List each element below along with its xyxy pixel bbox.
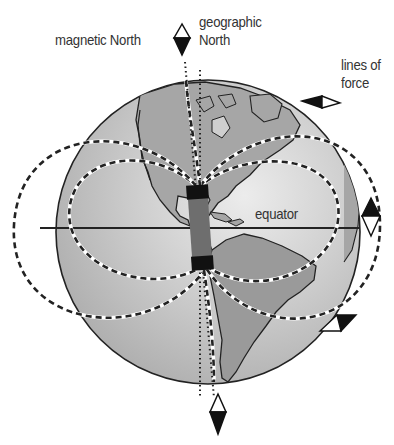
lines-of-force-label-line1: lines of [341, 56, 381, 73]
compass-bottom-icon [210, 394, 226, 434]
lines-of-force-label-line2: force [341, 74, 369, 91]
geographic-north-label-line2: North [199, 31, 230, 48]
magnetic-north-label: magnetic North [55, 31, 141, 48]
geographic-north-label-line1: geographic [199, 13, 262, 30]
equator-label: equator [255, 205, 298, 222]
compass-magnetic-north-icon [174, 24, 190, 55]
magnetic-field-diagram [0, 0, 394, 445]
compass-lines-of-force-icon [302, 96, 340, 108]
